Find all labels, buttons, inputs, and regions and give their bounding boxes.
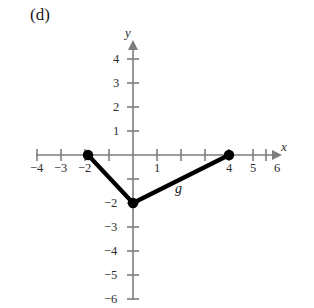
x-tick-label-minus2: −2 <box>78 162 91 175</box>
y-tick-label-3: 3 <box>113 77 119 90</box>
vertex-marker <box>128 198 138 208</box>
x-tick-label-6: 6 <box>274 162 280 175</box>
curve-label-g: g <box>175 181 182 197</box>
panel-label: (d) <box>30 6 50 23</box>
y-tick-label-minus4: −4 <box>104 245 117 258</box>
y-tick-label-minus2: −2 <box>104 197 117 210</box>
y-axis-label: y <box>125 25 131 41</box>
x-tick-label-minus4: −4 <box>30 162 43 175</box>
y-tick-label-4: 4 <box>113 53 119 66</box>
x-tick-label-1: 1 <box>154 162 160 175</box>
y-tick-label-2: 2 <box>113 101 119 114</box>
y-tick-label-1: 1 <box>113 125 119 138</box>
endpoint-marker-right <box>224 150 234 160</box>
x-tick-label-4: 4 <box>226 162 232 175</box>
coordinate-plane <box>0 0 314 308</box>
endpoint-marker-left <box>83 150 93 160</box>
figure-panel: (d) <box>0 0 314 308</box>
y-tick-label-minus5: −5 <box>104 269 117 282</box>
x-axis-label: x <box>281 139 287 155</box>
x-axis <box>36 150 282 160</box>
x-tick-label-minus3: −3 <box>54 162 67 175</box>
x-tick-label-5: 5 <box>250 162 256 175</box>
y-axis <box>128 40 138 300</box>
y-tick-label-minus3: −3 <box>104 221 117 234</box>
y-tick-label-minus6: −6 <box>104 293 117 306</box>
